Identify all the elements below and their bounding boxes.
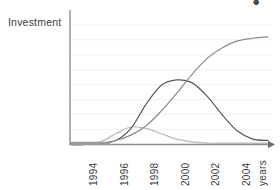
chart-container: ● Investment 199419961998200020022004 ye… bbox=[0, 0, 280, 190]
series-curves-group bbox=[70, 37, 268, 145]
x-tick-label-2000: 2000 bbox=[181, 163, 191, 186]
x-axis-title: years bbox=[258, 160, 268, 186]
x-axis-arrow-icon bbox=[268, 141, 275, 148]
series-line-cumulative-growth bbox=[70, 37, 268, 145]
chart-plot-area bbox=[0, 0, 280, 190]
series-line-main-wave bbox=[70, 80, 268, 145]
x-tick-label-2002: 2002 bbox=[211, 163, 221, 186]
x-tick-label-2004: 2004 bbox=[242, 163, 252, 186]
gridlines-group bbox=[70, 25, 272, 130]
x-tick-label-1998: 1998 bbox=[150, 163, 160, 186]
x-tick-label-1994: 1994 bbox=[89, 163, 99, 186]
x-tick-label-1996: 1996 bbox=[120, 163, 130, 186]
